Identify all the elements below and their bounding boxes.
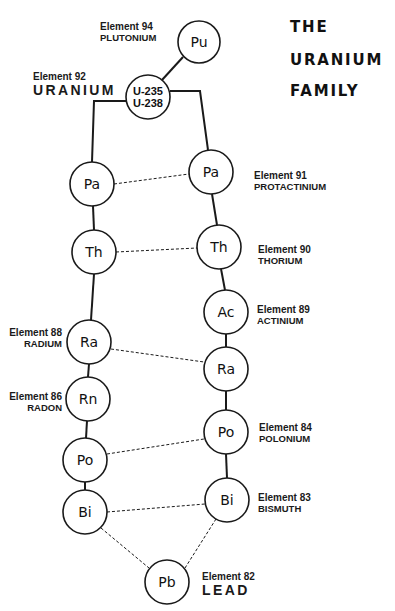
element-node-th_r: Th	[197, 225, 241, 269]
element-node-po_r: Po	[204, 410, 248, 454]
isotope-link-dashed	[116, 248, 197, 252]
element-node-bi_r: Bi	[205, 478, 249, 522]
element-label-ac: Element 89ACTINIUM	[257, 304, 310, 326]
element-symbol: Pa	[203, 164, 219, 180]
isotope-link-dashed	[185, 519, 216, 568]
decay-line	[221, 269, 225, 290]
element-name: PLUTONIUM	[100, 32, 156, 43]
element-symbol: Po	[77, 452, 94, 468]
element-label-pb: Element 82LEAD	[202, 571, 255, 598]
decay-edges-dashed	[101, 174, 216, 568]
element-number: Element 91	[254, 170, 326, 181]
element-name: THORIUM	[258, 255, 311, 266]
element-number: Element 94	[100, 21, 156, 32]
element-name: PROTACTINIUM	[254, 181, 326, 192]
isotope-link-dashed	[114, 174, 189, 184]
decay-line	[88, 364, 89, 377]
element-name: RADON	[9, 402, 62, 413]
element-number: Element 83	[258, 492, 311, 503]
element-symbol: Po	[218, 424, 235, 440]
element-symbol: Bi	[220, 492, 234, 508]
element-symbol: Pb	[158, 574, 175, 590]
element-node-ac: Ac	[204, 290, 248, 334]
element-symbol: Rn	[79, 391, 98, 407]
element-symbol: Th	[209, 239, 227, 255]
decay-line	[226, 454, 227, 478]
element-node-pa_l: Pa	[70, 162, 114, 206]
isotope-link-dashed	[107, 504, 205, 512]
element-label-rn: Element 86RADON	[9, 391, 62, 413]
element-symbol-2: U-238	[133, 97, 163, 109]
element-label-u: Element 92URANIUM	[33, 71, 116, 98]
element-node-bi_l: Bi	[63, 490, 107, 534]
element-symbol: Th	[84, 244, 102, 260]
element-number: Element 89	[257, 304, 310, 315]
element-node-pu: Pu	[178, 21, 220, 63]
decay-line	[170, 91, 208, 150]
decay-line	[91, 274, 94, 320]
element-node-pb: Pb	[145, 560, 189, 604]
element-label-po: Element 84POLONIUM	[259, 422, 312, 444]
element-number: Element 92	[33, 71, 116, 82]
element-name: RADIUM	[9, 338, 62, 349]
element-name: LEAD	[202, 583, 255, 598]
isotope-link-dashed	[111, 349, 204, 362]
element-symbol: Ra	[80, 334, 98, 350]
element-node-pa_r: Pa	[189, 150, 233, 194]
element-node-ra_l: Ra	[67, 320, 111, 364]
decay-line	[93, 206, 94, 230]
element-name: BISMUTH	[258, 503, 311, 514]
element-symbol: Pa	[84, 176, 100, 192]
element-node-rn: Rn	[66, 377, 110, 421]
element-symbol: Bi	[78, 504, 92, 520]
element-label-pa: Element 91PROTACTINIUM	[254, 170, 326, 192]
element-number: Element 86	[9, 391, 62, 402]
decay-line	[162, 57, 183, 80]
element-number: Element 88	[9, 327, 62, 338]
element-name: ACTINIUM	[257, 315, 310, 326]
decay-line	[92, 101, 126, 162]
isotope-link-dashed	[101, 528, 149, 568]
element-label-bi: Element 83BISMUTH	[258, 492, 311, 514]
element-node-th_l: Th	[72, 230, 116, 274]
element-symbol: Ac	[217, 304, 234, 320]
element-number: Element 82	[202, 571, 255, 582]
element-node-po_l: Po	[63, 438, 107, 482]
element-number: Element 84	[259, 422, 312, 433]
decay-line	[212, 194, 217, 225]
element-symbol: U-235	[133, 85, 163, 97]
element-label-th: Element 90THORIUM	[258, 244, 311, 266]
decay-line	[86, 421, 87, 438]
element-name: URANIUM	[33, 83, 116, 98]
element-name: POLONIUM	[259, 433, 312, 444]
element-symbol: Ra	[217, 361, 235, 377]
element-label-ra: Element 88RADIUM	[9, 327, 62, 349]
title-line-3: FAMILY	[290, 82, 360, 100]
element-node-u: U-235U-238	[126, 75, 170, 119]
isotope-link-dashed	[107, 439, 204, 454]
title-line-2: URANIUM	[290, 51, 383, 69]
element-number: Element 90	[258, 244, 311, 255]
element-node-ra_r: Ra	[204, 347, 248, 391]
element-label-pu: Element 94PLUTONIUM	[100, 21, 156, 43]
element-symbol: Pu	[190, 34, 207, 50]
title-line-1: THE	[290, 18, 328, 36]
